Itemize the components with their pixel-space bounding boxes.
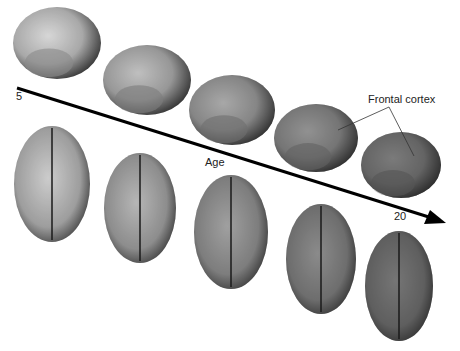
gray-matter-overlay [13, 7, 101, 79]
lateral-brain-4 [274, 104, 358, 172]
age-axis-label: Age [205, 156, 225, 168]
top-brain-5 [365, 231, 433, 341]
age-start-label: 5 [16, 90, 22, 102]
lateral-brain-5 [361, 132, 441, 198]
age-end-label: 20 [394, 210, 406, 222]
age-axis-arrowhead [424, 210, 446, 224]
top-brain-2 [104, 153, 176, 263]
lateral-brain-2 [103, 45, 191, 115]
gray-matter-overlay [189, 75, 275, 145]
lateral-brain-3 [189, 75, 275, 145]
top-brain-1 [14, 126, 90, 242]
gray-matter-overlay [103, 45, 191, 115]
brain-development-figure: 5 Age 20 Frontal cortex [0, 0, 460, 351]
frontal-cortex-label: Frontal cortex [368, 93, 436, 105]
gray-matter-overlay [361, 132, 441, 198]
top-brain-4 [286, 204, 356, 314]
top-brain-3 [194, 175, 268, 289]
lateral-brain-1 [13, 7, 101, 79]
gray-matter-overlay [274, 104, 358, 172]
